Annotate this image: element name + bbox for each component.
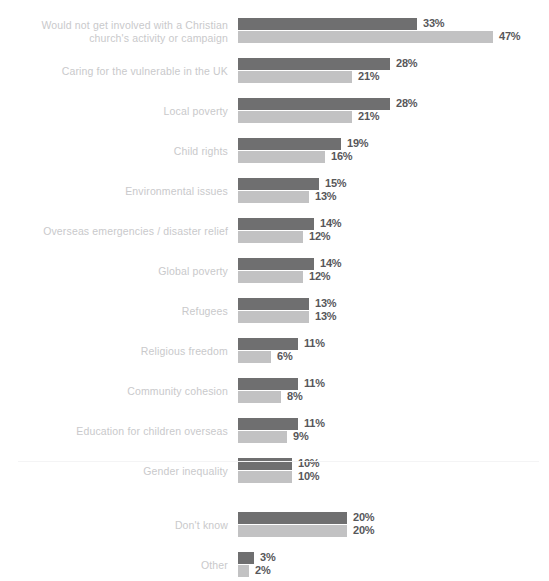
bar-group: 19%16%: [238, 138, 549, 178]
bar-series-1: 11%: [238, 338, 549, 350]
bar-fill-series-2: [238, 71, 352, 83]
category-label-line: Religious freedom: [0, 345, 228, 358]
category-label: Overseas emergencies / disaster relief: [0, 218, 228, 238]
chart-row: Don't know20%20%: [0, 512, 549, 552]
bar-value-label: 12%: [309, 230, 330, 243]
bar-series-1: 11%: [238, 418, 549, 430]
bar-fill-series-2: [238, 231, 303, 243]
bar-series-1: 20%: [238, 512, 549, 524]
category-label-line: Other: [0, 559, 228, 572]
bar-series-2: 12%: [238, 231, 549, 243]
category-label: Other: [0, 552, 228, 572]
bar-group: 14%12%: [238, 218, 549, 258]
bar-series-1: 28%: [238, 98, 549, 110]
chart-rows: Would not get involved with a Christianc…: [0, 18, 549, 581]
category-label-line: Gender inequality: [0, 465, 228, 478]
bar-fill-series-2: [238, 271, 303, 283]
bar-series-1: 28%: [238, 58, 549, 70]
bar-fill-series-2: [238, 191, 309, 203]
bar-series-2: 21%: [238, 71, 549, 83]
category-label: Environmental issues: [0, 178, 228, 198]
bar-value-label: 13%: [315, 297, 336, 310]
chart-row: Would not get involved with a Christianc…: [0, 18, 549, 58]
category-label-line: church's activity or campaign: [0, 32, 228, 45]
category-label-line: Don't know: [0, 519, 228, 532]
category-label-line: Local poverty: [0, 105, 228, 118]
chart-row: Child rights19%16%: [0, 138, 549, 178]
bar-fill-series-2: [238, 31, 493, 43]
bar-value-label: 28%: [396, 57, 417, 70]
bar-fill-series-2: [238, 391, 281, 403]
category-label: Education for children overseas: [0, 418, 228, 438]
bar-series-2: 12%: [238, 271, 549, 283]
chart-row: Religious freedom11%6%: [0, 338, 549, 378]
category-label: Religious freedom: [0, 338, 228, 358]
bar-series-2: 16%: [238, 151, 549, 163]
bar-fill-series-2: [238, 351, 271, 363]
bar-value-label: 21%: [358, 110, 379, 123]
bar-group: 15%13%: [238, 178, 549, 218]
bar-fill-series-2: [238, 311, 309, 323]
bar-fill-series-1: [238, 298, 309, 310]
bar-group: 11%8%: [238, 378, 549, 418]
chart-row: Other3%2%: [0, 552, 549, 581]
bar-group: 3%2%: [238, 552, 549, 581]
bar-value-label: 9%: [293, 430, 309, 443]
bar-value-label: 20%: [353, 524, 374, 537]
bar-fill-series-2: [238, 525, 347, 537]
bar-fill-series-1: [238, 18, 417, 30]
bar-value-label: 11%: [304, 417, 325, 430]
bar-value-label: 13%: [315, 190, 336, 203]
bar-fill-series-1: [238, 378, 298, 390]
bar-series-1: 10%: [238, 458, 549, 470]
bar-series-1: 14%: [238, 218, 549, 230]
chart-row: Community cohesion11%8%: [0, 378, 549, 418]
category-label-line: Child rights: [0, 145, 228, 158]
category-label-line: Refugees: [0, 305, 228, 318]
bar-value-label: 10%: [298, 470, 319, 483]
bar-series-1: 11%: [238, 378, 549, 390]
bar-series-2: 2%: [238, 565, 549, 577]
bar-value-label: 13%: [315, 310, 336, 323]
category-label: Global poverty: [0, 258, 228, 278]
chart-row: Environmental issues15%13%: [0, 178, 549, 218]
bar-fill-series-2: [238, 431, 287, 443]
bar-group: 33%47%: [238, 18, 549, 58]
bar-fill-series-2: [238, 565, 249, 577]
bar-group: 28%21%: [238, 58, 549, 98]
bar-group: 20%20%: [238, 512, 549, 552]
bar-series-1: 14%: [238, 258, 549, 270]
chart-row: Gender inequality10%10%: [0, 458, 549, 498]
bar-value-label: 11%: [304, 377, 325, 390]
bar-fill-series-2: [238, 111, 352, 123]
bar-series-2: 21%: [238, 111, 549, 123]
bar-series-1: 13%: [238, 298, 549, 310]
category-label: Local poverty: [0, 98, 228, 118]
bar-value-label: 14%: [320, 257, 341, 270]
bar-value-label: 10%: [298, 457, 319, 470]
bar-fill-series-1: [238, 138, 341, 150]
category-label-line: Environmental issues: [0, 185, 228, 198]
bar-series-1: 33%: [238, 18, 549, 30]
bar-value-label: 8%: [287, 390, 303, 403]
bar-group: 11%6%: [238, 338, 549, 378]
bar-fill-series-1: [238, 258, 314, 270]
bar-value-label: 6%: [277, 350, 293, 363]
summary-separator: [18, 461, 539, 462]
category-label-line: Caring for the vulnerable in the UK: [0, 65, 228, 78]
bar-series-2: 10%: [238, 471, 549, 483]
bar-series-2: 13%: [238, 311, 549, 323]
bar-value-label: 15%: [325, 177, 346, 190]
bar-fill-series-1: [238, 218, 314, 230]
chart-row: Overseas emergencies / disaster relief14…: [0, 218, 549, 258]
bar-group: 11%9%: [238, 418, 549, 458]
bar-value-label: 14%: [320, 217, 341, 230]
chart-row: Local poverty28%21%: [0, 98, 549, 138]
bar-value-label: 20%: [353, 511, 374, 524]
category-label: Don't know: [0, 512, 228, 532]
bar-value-label: 11%: [304, 337, 325, 350]
bar-value-label: 33%: [423, 17, 444, 30]
bar-group: 10%10%: [238, 458, 549, 498]
chart-row: Education for children overseas11%9%: [0, 418, 549, 458]
